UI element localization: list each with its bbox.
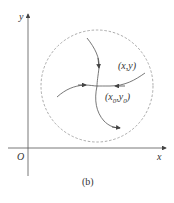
origin-label: O: [17, 151, 24, 162]
figure-caption: (b): [82, 176, 94, 187]
figure-canvas: y O x (x,y) (x0,y0) (b): [0, 0, 174, 203]
trajectory-right: [97, 73, 145, 86]
x-axis-label: x: [157, 151, 161, 162]
trajectory-top-arrow: [98, 58, 99, 68]
x0y0-prefix: (x: [105, 91, 113, 102]
trajectory-top: [87, 38, 99, 86]
trajectory-bottom-arrow: [112, 127, 120, 128]
x0y0-suffix: ): [127, 91, 130, 102]
trajectory-left: [57, 85, 97, 97]
diagram-svg: [0, 0, 174, 203]
y-axis-label: y: [19, 11, 23, 22]
point-label-xy: (x,y): [118, 60, 136, 71]
point-label-x0y0: (x0,y0): [105, 91, 130, 105]
